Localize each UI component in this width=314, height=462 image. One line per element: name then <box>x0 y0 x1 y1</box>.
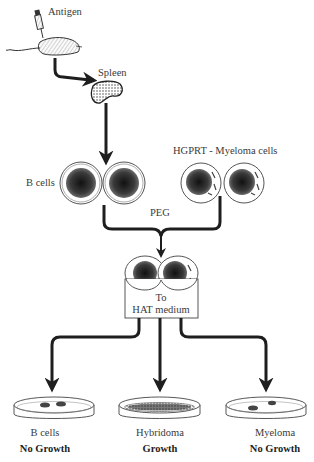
b-cells-label: B cells <box>26 178 55 189</box>
b-cells-icon <box>60 162 145 204</box>
myeloma-dish-icon <box>226 397 306 419</box>
antigen-label: Antigen <box>48 7 82 18</box>
outcome-hybridoma-type: Hybridoma <box>136 428 184 439</box>
syringe-icon <box>34 9 43 38</box>
hybridoma-dish-icon <box>119 397 200 419</box>
arrow-to-bcells-dish <box>52 318 139 385</box>
peg-label: PEG <box>150 208 170 219</box>
outcome-myeloma-type: Myeloma <box>255 428 295 439</box>
arrow-mouse-to-spleen <box>55 58 90 80</box>
bcells-dish-icon <box>14 397 94 419</box>
outcome-hybridoma-result: Growth <box>143 444 178 455</box>
outcome-bcells-result: No Growth <box>20 444 70 455</box>
outcome-myeloma-result: No Growth <box>250 444 300 455</box>
myeloma-cells-icon <box>181 163 264 203</box>
hat-medium-line2: HAT medium <box>132 305 189 316</box>
outcome-bcells-type: B cells <box>31 428 60 439</box>
hat-medium-line1: To <box>156 293 167 304</box>
myeloma-cells-label: HGPRT - Myeloma cells <box>173 146 277 157</box>
diagram-canvas <box>0 0 314 462</box>
mouse-icon <box>6 38 82 56</box>
spleen-label: Spleen <box>98 68 127 79</box>
arrow-to-myeloma-dish <box>181 318 266 385</box>
spleen-icon <box>91 81 122 103</box>
